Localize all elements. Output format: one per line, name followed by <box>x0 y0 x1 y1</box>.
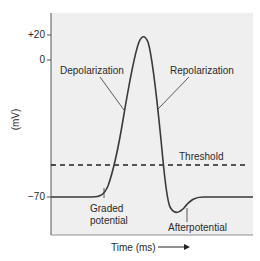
label-graded-line2: potential <box>90 215 128 226</box>
label-threshold: Threshold <box>179 151 223 162</box>
plot-background <box>51 13 253 235</box>
label-depolarization: Depolarization <box>60 65 124 76</box>
label-graded-line1: Graded <box>90 203 123 214</box>
y-axis-label: (mV) <box>10 109 21 131</box>
action-potential-figure: +20 0 −70 (mV) Depolarization Repolariza… <box>0 0 260 261</box>
label-repolarization: Repolarization <box>170 65 234 76</box>
time-arrow-head-icon <box>184 244 190 250</box>
tick-label-plus20: +20 <box>15 30 45 40</box>
tick-label-minus70: −70 <box>15 192 45 202</box>
label-afterpotential: Afterpotential <box>168 222 227 233</box>
x-axis-label: Time (ms) <box>111 242 156 253</box>
tick-label-zero: 0 <box>15 55 45 65</box>
